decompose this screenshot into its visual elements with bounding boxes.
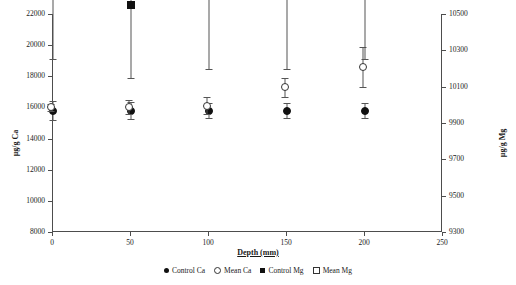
y-tick-label-right: 9900 <box>449 119 464 127</box>
legend-label: Mean Ca <box>224 266 251 275</box>
x-tick-label: 250 <box>436 239 447 247</box>
y-tick-right <box>442 87 446 88</box>
legend-marker-square-filled <box>260 268 265 273</box>
y-tick-label-right: 10300 <box>449 47 468 55</box>
legend-item-mean-mg: Mean Mg <box>313 266 352 275</box>
y-axis-left-title: µg/g Ca <box>11 129 20 156</box>
y-tick-label-right: 9500 <box>449 192 464 200</box>
x-tick <box>208 232 209 236</box>
y-tick-right <box>442 123 446 124</box>
x-axis-title: Depth (mm) <box>0 248 516 257</box>
x-tick-label: 0 <box>50 239 54 247</box>
y-tick-label-left: 20000 <box>26 41 45 49</box>
y-tick-label-left: 14000 <box>26 135 45 143</box>
plot-area: 800010000120001400016000180002000022000 … <box>52 14 442 232</box>
y-tick-label-right: 10500 <box>449 10 468 18</box>
legend-label: Control Mg <box>268 266 303 275</box>
x-tick-label: 100 <box>202 239 213 247</box>
series-mean-mg <box>52 14 442 232</box>
x-tick <box>364 232 365 236</box>
y-tick-label-right: 9700 <box>449 156 464 164</box>
y-tick-right <box>442 159 446 160</box>
y-tick-right <box>442 196 446 197</box>
legend-label: Control Ca <box>172 266 205 275</box>
x-tick-label: 200 <box>358 239 369 247</box>
y-tick-label-right: 10100 <box>449 83 468 91</box>
y-tick-right <box>442 50 446 51</box>
y-tick-label-left: 10000 <box>26 197 45 205</box>
y-tick-label-left: 8000 <box>30 228 45 236</box>
scatter-chart: µg/g Ca µg/g Mg Depth (mm) 8000100001200… <box>0 0 516 285</box>
legend-item-control-ca: Control Ca <box>164 266 205 275</box>
y-axis-right-title: µg/g Mg <box>497 128 506 156</box>
y-tick-label-left: 18000 <box>26 73 45 81</box>
data-point-square-filled <box>127 1 135 9</box>
x-tick <box>130 232 131 236</box>
x-tick <box>286 232 287 236</box>
legend-label: Mean Mg <box>323 266 352 275</box>
x-tick-label: 150 <box>280 239 291 247</box>
legend-marker-square-open <box>313 267 320 274</box>
legend-marker-circle-filled <box>164 268 169 273</box>
y-tick-right <box>442 14 446 15</box>
x-tick <box>52 232 53 236</box>
legend-item-mean-ca: Mean Ca <box>214 266 251 275</box>
legend-marker-circle-open <box>214 267 221 274</box>
y-tick-label-right: 9300 <box>449 228 464 236</box>
legend-item-control-mg: Control Mg <box>260 266 303 275</box>
y-tick-label-left: 22000 <box>26 10 45 18</box>
y-tick-label-left: 16000 <box>26 104 45 112</box>
x-tick <box>442 232 443 236</box>
x-tick-label: 50 <box>126 239 134 247</box>
chart-legend: Control CaMean CaControl MgMean Mg <box>0 266 516 275</box>
y-tick-label-left: 12000 <box>26 166 45 174</box>
